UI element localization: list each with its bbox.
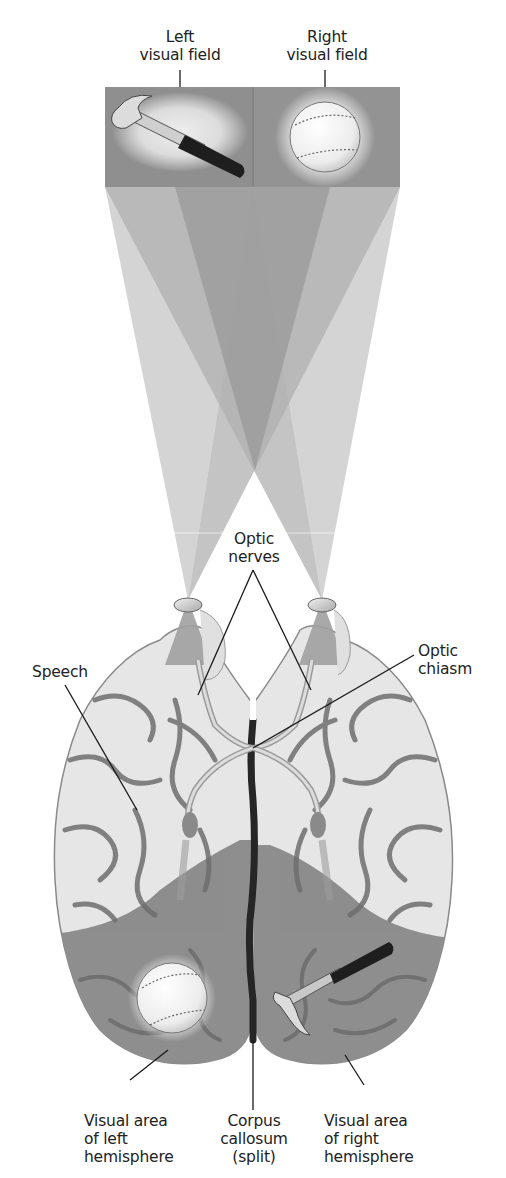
label-line: Optic xyxy=(222,530,286,548)
split-brain-visual-pathway-diagram: Left visual field Right visual field Opt… xyxy=(0,0,506,1178)
label-line: hemisphere xyxy=(84,1148,194,1166)
label-line: (split) xyxy=(212,1148,296,1166)
right-hemisphere xyxy=(250,626,470,1100)
label-line: hemisphere xyxy=(324,1148,434,1166)
label-line: Visual area xyxy=(324,1112,434,1130)
baseball-in-left-hemisphere-icon xyxy=(128,954,216,1042)
diagram-art xyxy=(0,0,506,1178)
label-line: nerves xyxy=(222,548,286,566)
label-line: callosum xyxy=(212,1130,296,1148)
label-corpus-callosum: Corpus callosum (split) xyxy=(212,1112,296,1166)
label-line: Right xyxy=(272,28,382,46)
longitudinal-fissure xyxy=(249,720,254,1040)
label-speech: Speech xyxy=(32,663,102,681)
label-visual-area-right-hemisphere: Visual area of right hemisphere xyxy=(324,1112,434,1166)
label-line: Optic xyxy=(418,642,488,660)
label-visual-area-left-hemisphere: Visual area of left hemisphere xyxy=(84,1112,194,1166)
label-line: Corpus xyxy=(212,1112,296,1130)
label-line: Visual area xyxy=(84,1112,194,1130)
baseball-icon xyxy=(275,87,375,187)
brain xyxy=(40,626,470,1100)
label-line: of left xyxy=(84,1130,194,1148)
label-left-visual-field: Left visual field xyxy=(128,28,232,64)
label-line: of right xyxy=(324,1130,434,1148)
label-line: Speech xyxy=(32,663,102,681)
label-line: Left xyxy=(128,28,232,46)
label-line: chiasm xyxy=(418,660,488,678)
label-optic-chiasm: Optic chiasm xyxy=(418,642,488,678)
label-right-visual-field: Right visual field xyxy=(272,28,382,64)
label-line: visual field xyxy=(128,46,232,64)
label-optic-nerves: Optic nerves xyxy=(222,530,286,566)
label-line: visual field xyxy=(272,46,382,64)
